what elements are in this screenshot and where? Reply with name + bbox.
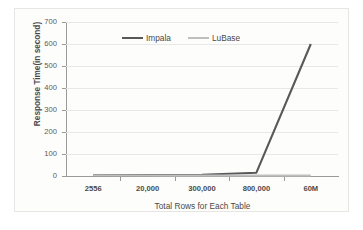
x-tick-mark bbox=[175, 177, 176, 181]
series-lines bbox=[66, 22, 338, 176]
x-tick-label: 20,000 bbox=[118, 185, 178, 193]
x-tick-mark bbox=[284, 177, 285, 181]
y-tick-mark bbox=[62, 176, 66, 177]
legend-label: LuBase bbox=[212, 34, 240, 42]
x-tick-label: 2556 bbox=[63, 185, 123, 193]
x-tick-mark bbox=[120, 177, 121, 181]
legend-line-icon bbox=[188, 37, 209, 39]
y-tick-label: 200 bbox=[19, 128, 57, 136]
y-tick-label: 600 bbox=[19, 40, 57, 48]
y-tick-label: 400 bbox=[19, 84, 57, 92]
x-tick-mark bbox=[229, 177, 230, 181]
chart-legend: ImpalaLuBase bbox=[122, 34, 240, 42]
x-tick-label: 60M bbox=[281, 185, 341, 193]
legend-item-lubase[interactable]: LuBase bbox=[188, 34, 240, 42]
legend-item-impala[interactable]: Impala bbox=[122, 34, 171, 42]
legend-label: Impala bbox=[146, 34, 171, 42]
y-axis-title: Response Time(in second) bbox=[32, 9, 42, 139]
x-tick-label: 800,000 bbox=[226, 185, 286, 193]
y-tick-label: 500 bbox=[19, 62, 57, 70]
y-tick-label: 100 bbox=[19, 150, 57, 158]
y-tick-label: 300 bbox=[19, 106, 57, 114]
y-tick-label: 0 bbox=[19, 172, 57, 180]
plot-area bbox=[66, 22, 338, 176]
series-line-impala bbox=[93, 44, 311, 175]
x-axis-title: Total Rows for Each Table bbox=[66, 201, 339, 211]
chart-figure: Response Time(in second) 010020030040050… bbox=[14, 8, 349, 212]
x-tick-label: 300,000 bbox=[172, 185, 232, 193]
legend-line-icon bbox=[122, 37, 143, 39]
y-tick-label: 700 bbox=[19, 18, 57, 26]
